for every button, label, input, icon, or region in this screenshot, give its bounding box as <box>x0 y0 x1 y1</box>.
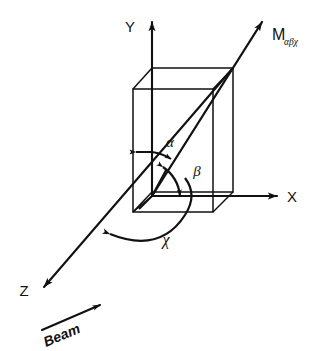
beam-label-group: Beam <box>41 320 82 350</box>
z-axis-label: Z <box>19 282 28 299</box>
chi-projection-line <box>133 196 152 212</box>
z-axis-line <box>44 68 233 287</box>
alpha-arc <box>136 152 171 159</box>
vector-orientation-diagram: Y X Z α β χ M αβχ Beam <box>0 0 321 351</box>
y-axis-label: Y <box>125 18 135 35</box>
chi-angle-label: χ <box>160 231 170 249</box>
magnetization-vector-label: M αβχ <box>272 26 299 47</box>
box-front-face <box>133 89 213 212</box>
box-edge-top-left <box>133 68 152 89</box>
beta-angle-label: β <box>192 163 201 179</box>
x-axis-label: X <box>287 188 297 205</box>
diagram-canvas: Y X Z α β χ M αβχ Beam <box>0 0 321 351</box>
vector-subscript: αβχ <box>284 37 299 47</box>
alpha-angle-label: α <box>166 134 175 150</box>
magnetization-vector <box>152 22 262 196</box>
beam-label: Beam <box>41 320 82 350</box>
